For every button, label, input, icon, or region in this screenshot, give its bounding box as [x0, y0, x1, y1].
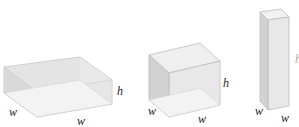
wide-short-box: [4, 57, 112, 117]
box3-width-left-label: w: [255, 104, 263, 119]
box1-height-label: h: [117, 84, 123, 99]
box1-width-left-label: w: [9, 105, 17, 120]
box2-width-bottom-label: w: [198, 112, 206, 127]
box3-height-label: h: [295, 52, 299, 67]
box1-width-bottom-label: w: [77, 114, 85, 127]
box2-height-label: h: [223, 76, 229, 91]
box3-width-bottom-label: w: [281, 111, 289, 126]
box2-width-left-label: w: [148, 104, 156, 119]
cube-box: [149, 43, 220, 117]
tall-narrow-box: [260, 9, 289, 110]
